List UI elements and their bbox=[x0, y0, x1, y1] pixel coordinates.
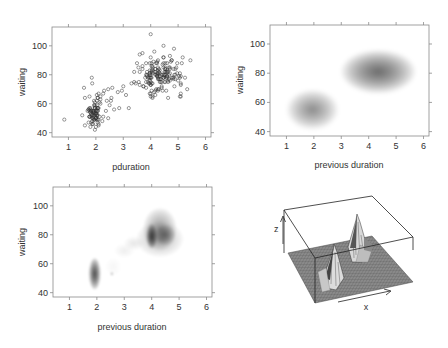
surface-3d-panel: z x bbox=[274, 196, 413, 312]
data-point bbox=[145, 62, 148, 65]
smooth-density-area bbox=[288, 51, 415, 129]
y-axis-label: waiting bbox=[235, 66, 245, 95]
data-point bbox=[162, 44, 165, 47]
data-point bbox=[186, 88, 189, 91]
data-point bbox=[107, 117, 110, 120]
data-point bbox=[103, 89, 106, 92]
x-tick-label: 5 bbox=[394, 141, 399, 151]
sharp-density-panel: 123456406080100 previous duration waitin… bbox=[17, 184, 215, 332]
x-tick-label: 3 bbox=[121, 142, 126, 152]
y-tick-label: 40 bbox=[37, 128, 47, 138]
data-point bbox=[137, 66, 140, 69]
x-axis-label: pduration bbox=[112, 162, 150, 172]
figure-canvas: 123456406080100 pduration waiting 123456… bbox=[0, 0, 448, 348]
data-point bbox=[181, 56, 184, 59]
scatter-points bbox=[63, 33, 192, 132]
y-tick-label: 40 bbox=[255, 127, 265, 137]
x-tick-label: 5 bbox=[176, 142, 181, 152]
data-point bbox=[89, 125, 92, 128]
x-tick-label: 4 bbox=[366, 141, 371, 151]
data-point bbox=[168, 54, 171, 57]
data-point bbox=[149, 33, 152, 36]
z-axis-label: z bbox=[274, 224, 279, 234]
density-component bbox=[157, 237, 163, 241]
data-point bbox=[133, 70, 136, 73]
y-tick-label: 80 bbox=[38, 230, 48, 240]
data-point bbox=[127, 107, 130, 110]
data-point bbox=[138, 83, 141, 86]
z-axis-arrow bbox=[281, 216, 286, 244]
x-tick-label: 4 bbox=[149, 302, 154, 312]
data-point bbox=[130, 82, 133, 85]
data-point bbox=[141, 52, 144, 55]
y-tick-label: 60 bbox=[38, 259, 48, 269]
data-point bbox=[116, 91, 119, 94]
y-tick-label: 100 bbox=[33, 201, 48, 211]
x-axis-label: previous duration bbox=[314, 160, 383, 170]
x-axis-label: previous duration bbox=[97, 322, 166, 332]
data-point bbox=[145, 86, 148, 89]
data-point bbox=[81, 114, 84, 117]
y-tick-label: 100 bbox=[32, 41, 47, 51]
data-point bbox=[138, 70, 141, 73]
data-point bbox=[172, 47, 175, 50]
density-component bbox=[374, 69, 383, 74]
x-axis-label: x bbox=[364, 302, 369, 312]
data-point bbox=[153, 50, 156, 53]
data-point bbox=[111, 86, 114, 89]
data-point bbox=[149, 56, 152, 59]
data-point bbox=[177, 79, 180, 82]
sharp-density-area bbox=[89, 208, 183, 289]
data-point bbox=[122, 85, 125, 88]
data-point bbox=[82, 86, 85, 89]
x-tick-label: 5 bbox=[177, 302, 182, 312]
data-point bbox=[176, 62, 179, 65]
x-tick-label: 1 bbox=[66, 142, 71, 152]
data-point bbox=[135, 62, 138, 65]
data-point bbox=[102, 115, 105, 118]
data-point bbox=[120, 89, 123, 92]
data-point bbox=[183, 76, 186, 79]
data-point bbox=[90, 76, 93, 79]
smooth-density-panel: 123456406080100 previous duration waitin… bbox=[235, 22, 432, 170]
data-point bbox=[118, 107, 121, 110]
y-tick-label: 60 bbox=[255, 97, 265, 107]
data-point bbox=[83, 124, 86, 127]
x-tick-label: 2 bbox=[94, 302, 99, 312]
x-tick-label: 2 bbox=[311, 141, 316, 151]
y-tick-label: 100 bbox=[250, 39, 265, 49]
data-point bbox=[105, 99, 108, 102]
data-point bbox=[180, 62, 183, 65]
x-tick-label: 6 bbox=[421, 141, 426, 151]
scatter-panel: 123456406080100 pduration waiting bbox=[17, 24, 214, 172]
data-point bbox=[107, 88, 110, 91]
data-point bbox=[113, 108, 116, 111]
data-point bbox=[101, 120, 104, 123]
x-tick-label: 6 bbox=[204, 302, 209, 312]
axis-ticks: 123456406080100 bbox=[250, 22, 432, 151]
y-axis-label: waiting bbox=[17, 228, 27, 257]
data-point bbox=[167, 96, 170, 99]
density-component bbox=[94, 272, 95, 276]
data-point bbox=[189, 59, 192, 62]
data-point bbox=[63, 118, 66, 121]
data-point bbox=[88, 95, 91, 98]
density-component bbox=[112, 266, 114, 268]
y-axis-label: waiting bbox=[17, 68, 27, 97]
x-tick-label: 4 bbox=[148, 142, 153, 152]
data-point bbox=[124, 93, 127, 96]
density-component bbox=[133, 243, 135, 245]
x-tick-label: 1 bbox=[67, 302, 72, 312]
data-point bbox=[165, 89, 168, 92]
data-point bbox=[83, 96, 86, 99]
density-component bbox=[309, 107, 315, 112]
data-point bbox=[108, 104, 111, 107]
data-point bbox=[91, 82, 94, 85]
x-tick-label: 1 bbox=[284, 141, 289, 151]
x-tick-label: 2 bbox=[93, 142, 98, 152]
x-tick-label: 6 bbox=[203, 142, 208, 152]
y-tick-label: 80 bbox=[255, 68, 265, 78]
x-tick-label: 3 bbox=[339, 141, 344, 151]
data-point bbox=[104, 109, 107, 112]
y-tick-label: 40 bbox=[38, 288, 48, 298]
